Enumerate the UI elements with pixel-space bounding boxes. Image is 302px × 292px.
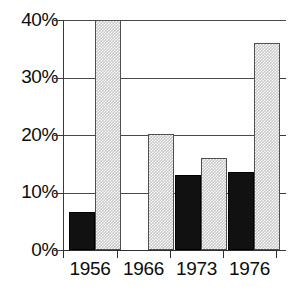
bar-1973-black	[175, 175, 201, 250]
x-tick-0	[63, 250, 64, 258]
x-tick-3	[223, 250, 224, 258]
x-axis-label-1976: 1976	[223, 258, 276, 280]
x-axis-label-1956: 1956	[63, 258, 117, 280]
y-tick-left-20	[54, 135, 63, 136]
x-tick-4	[276, 250, 277, 258]
y-tick-left-0	[54, 250, 63, 251]
y-axis-label-20: 20%	[21, 124, 58, 146]
y-axis-label-30: 30%	[21, 66, 58, 88]
bar-1966-gray	[148, 134, 174, 250]
y-axis-labels: 40% 30% 20% 10% 0%	[0, 0, 58, 292]
x-axis-label-1973: 1973	[170, 258, 223, 280]
y-tick-left-10	[54, 193, 63, 194]
bar-1976-gray	[254, 43, 280, 250]
x-axis-label-1966: 1966	[117, 258, 170, 280]
plot-area	[63, 20, 278, 250]
y-tick-right-0	[278, 250, 286, 251]
bar-1956-gray	[95, 20, 121, 250]
x-tick-2	[170, 250, 171, 258]
y-axis-label-40: 40%	[21, 9, 58, 31]
y-tick-left-30	[54, 78, 63, 79]
bar-chart: 40% 30% 20% 10% 0%	[0, 0, 302, 292]
y-tick-left-40	[54, 20, 63, 21]
x-tick-1	[117, 250, 118, 258]
y-axis-line	[63, 20, 64, 250]
bar-1973-gray	[201, 158, 227, 250]
bar-1976-black	[228, 172, 254, 250]
bar-1956-black	[69, 212, 95, 250]
y-axis-label-10: 10%	[21, 181, 58, 203]
